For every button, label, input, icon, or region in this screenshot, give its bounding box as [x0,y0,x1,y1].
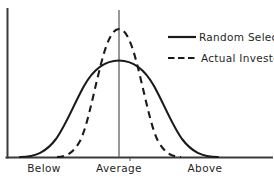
normal-distribution-chart: Below Average Above Random Selection Act… [0,0,274,181]
legend-label-random-selection: Random Selection [199,31,274,43]
legend-label-actual-investors: Actual Investors [201,52,274,64]
chart-background [0,0,274,181]
x-tick-label-below: Below [27,162,61,174]
chart-canvas: Below Average Above Random Selection Act… [0,0,274,181]
x-tick-label-average: Average [96,162,142,174]
x-tick-label-above: Above [188,162,223,174]
